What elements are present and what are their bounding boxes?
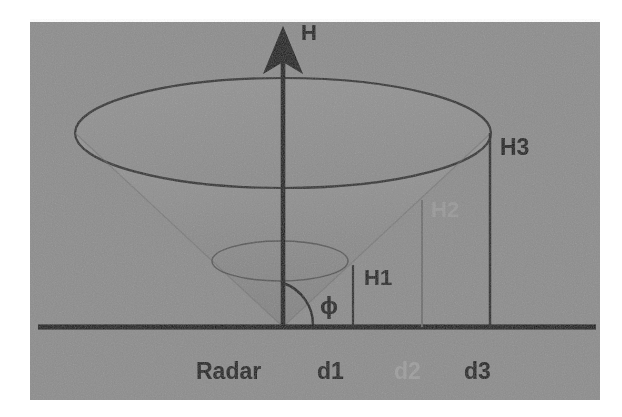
h1-label: H1 [364,265,392,290]
h2-label: H2 [431,197,459,222]
radar-cone-diagram-svg: H H3 H2 H1 ϕ Radar d1 d2 d3 [0,0,622,417]
d1-label: d1 [317,358,344,384]
figure-root: H H3 H2 H1 ϕ Radar d1 d2 d3 [0,0,622,417]
elevation-angle-label: ϕ [320,292,338,319]
radar-cone-diagram-panel: H H3 H2 H1 ϕ Radar d1 d2 d3 [0,0,622,417]
height-axis-label: H [301,20,317,45]
h3-label: H3 [500,134,529,160]
panel-group: H H3 H2 H1 ϕ Radar d1 d2 d3 [30,20,600,400]
d3-label: d3 [464,358,491,384]
radar-origin-label: Radar [196,358,261,384]
d2-label: d2 [394,358,421,384]
